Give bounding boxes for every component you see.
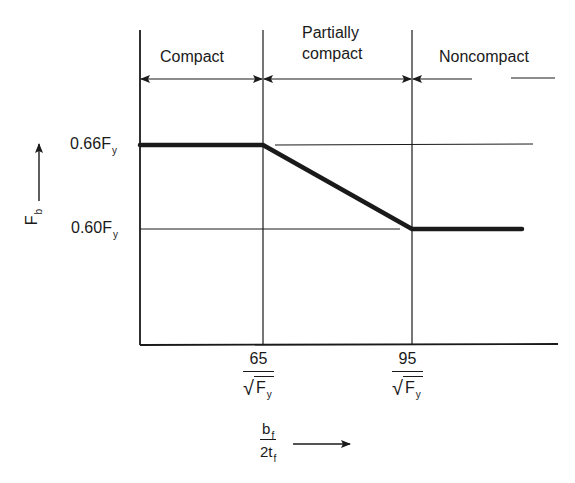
gridline-066 — [275, 144, 533, 145]
x-axis-line — [140, 344, 558, 345]
y-tick-066: 0.66Fy — [70, 136, 117, 152]
x-tick-65-den: √Fy — [243, 372, 274, 398]
region-label-partial-line1: Partially — [302, 25, 359, 41]
x-tick-95-den-text: F — [405, 379, 415, 396]
x-tick-95: 95 √Fy — [392, 350, 423, 398]
diagram-canvas — [0, 0, 575, 483]
x-tick-95-den: √Fy — [392, 372, 423, 398]
y-tick-066-sub: y — [112, 145, 117, 156]
region-label-noncompact: Noncompact — [439, 49, 529, 65]
x-tick-65: 65 √Fy — [243, 350, 274, 398]
x-axis-numerator-text: b — [262, 420, 270, 437]
x-axis-denominator: 2tf — [260, 440, 276, 460]
x-tick-95-num: 95 — [392, 350, 423, 372]
x-tick-65-den-sub: y — [267, 389, 272, 400]
sqrt-icon: √ — [243, 377, 254, 399]
y-axis-label: Fb — [23, 209, 41, 225]
x-tick-95-den-sub: y — [416, 389, 421, 400]
region-label-partial-line2: compact — [302, 46, 362, 62]
region-label-compact: Compact — [160, 49, 224, 65]
x-axis-label: bf 2tf — [260, 420, 276, 460]
y-tick-060-sub: y — [113, 229, 118, 240]
x-axis-denominator-text: 2t — [260, 443, 273, 460]
allowable-stress-curve — [140, 145, 522, 229]
y-axis-symbol: F — [23, 215, 40, 225]
x-tick-65-num: 65 — [243, 350, 274, 372]
y-tick-060: 0.60Fy — [71, 220, 118, 236]
x-axis-numerator: bf — [260, 420, 276, 440]
sqrt-icon: √ — [392, 377, 403, 399]
y-tick-066-text: 0.66F — [70, 135, 111, 152]
x-axis-numerator-sub: f — [271, 430, 274, 441]
x-tick-65-den-text: F — [256, 379, 266, 396]
y-tick-060-text: 0.60F — [71, 219, 112, 236]
x-axis-denominator-sub: f — [274, 453, 277, 464]
y-axis-subscript: b — [33, 209, 44, 215]
